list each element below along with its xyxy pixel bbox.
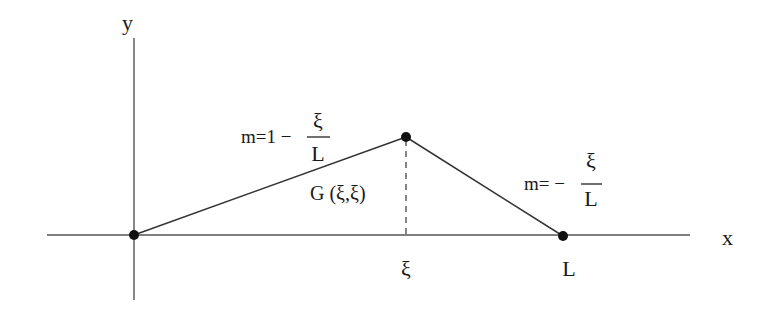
left-slope-numerator: ξ xyxy=(313,108,323,133)
end-point-L xyxy=(558,231,568,241)
peak-point xyxy=(401,132,411,142)
right-slope-prefix: m= − xyxy=(524,173,565,194)
left-slope-denominator: L xyxy=(311,141,324,166)
tick-label-L: L xyxy=(562,256,575,281)
tick-label-xi: ξ xyxy=(401,256,411,281)
y-axis-label: y xyxy=(122,10,133,35)
origin-point xyxy=(129,230,139,240)
right-slope-denominator: L xyxy=(584,186,597,211)
green-function-diagram: y x m=1 − ξ L m= − ξ L G (ξ,ξ) ξ L xyxy=(0,0,765,316)
peak-value-label: G (ξ,ξ) xyxy=(310,182,366,205)
right-slope-numerator: ξ xyxy=(586,148,596,173)
left-slope-prefix: m=1 − xyxy=(241,126,291,147)
x-axis-label: x xyxy=(722,225,733,250)
